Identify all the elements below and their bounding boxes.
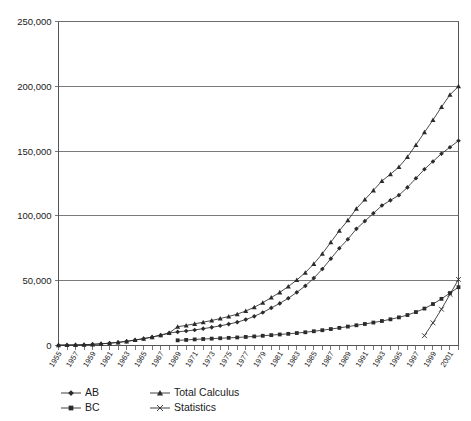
marker-square (346, 325, 350, 329)
chart-legend: ABTotal CalculusBCStatistics (61, 386, 239, 413)
marker-square (184, 338, 188, 342)
x-tick-label: 1993 (371, 350, 388, 369)
marker-square (176, 338, 180, 342)
series-statistics (422, 277, 461, 338)
legend-item-total-calculus[interactable]: Total Calculus (150, 386, 239, 398)
marker-diamond (192, 328, 197, 333)
y-tick-label: 0 (46, 340, 51, 351)
x-tick-label: 1963 (115, 350, 132, 369)
series-line-path (59, 141, 459, 345)
marker-square (303, 330, 307, 334)
marker-square (414, 310, 418, 314)
marker-square (201, 337, 205, 341)
marker-square (69, 406, 74, 411)
y-tick-label: 200,000 (17, 81, 51, 92)
y-axis: 050,000100,000150,000200,000250,000 (17, 16, 58, 351)
marker-diamond (269, 306, 274, 311)
marker-diamond (68, 390, 74, 396)
legend-item-ab[interactable]: AB (61, 386, 99, 398)
x-tick-label: 1981 (268, 350, 285, 369)
marker-square (218, 336, 222, 340)
marker-x (422, 333, 427, 338)
marker-triangle (430, 117, 435, 122)
x-tick-label: 1985 (302, 350, 319, 369)
marker-diamond (252, 314, 257, 319)
marker-square (329, 327, 333, 331)
series-bc (176, 285, 461, 342)
x-tick-label: 1987 (319, 350, 336, 369)
marker-triangle (243, 309, 248, 314)
marker-square (244, 335, 248, 339)
marker-square (397, 315, 401, 319)
x-tick-label: 1979 (251, 350, 268, 369)
marker-square (320, 328, 324, 332)
series-line-path (424, 279, 458, 335)
marker-square (423, 307, 427, 311)
marker-triangle (252, 305, 257, 310)
marker-square (363, 322, 367, 326)
marker-x (431, 320, 436, 325)
marker-diamond (218, 324, 223, 329)
x-tick-label: 1975 (217, 350, 234, 369)
marker-square (193, 338, 197, 342)
marker-diamond (388, 198, 393, 203)
x-tick-label: 1959 (81, 350, 98, 369)
marker-square (261, 334, 265, 338)
x-tick-label: 1995 (388, 350, 405, 369)
marker-square (252, 335, 256, 339)
marker-diamond (243, 317, 248, 322)
x-tick-label: 1969 (166, 350, 183, 369)
legend-label: AB (85, 386, 99, 398)
y-tick-label: 50,000 (22, 275, 51, 286)
marker-square (227, 336, 231, 340)
marker-square (286, 332, 290, 336)
marker-diamond (209, 325, 214, 330)
marker-square (389, 317, 393, 321)
marker-square (371, 321, 375, 325)
chart-container: 050,000100,000150,000200,000250,000 1955… (0, 0, 471, 421)
marker-square (295, 331, 299, 335)
marker-x (439, 307, 444, 312)
marker-diamond (226, 322, 231, 327)
legend-item-statistics[interactable]: Statistics (150, 401, 216, 413)
x-tick-label: 2001 (439, 350, 456, 369)
marker-diamond (235, 320, 240, 325)
marker-square (269, 333, 273, 337)
marker-square (312, 329, 316, 333)
y-tick-label: 150,000 (17, 146, 51, 157)
y-tick-label: 100,000 (17, 210, 51, 221)
marker-square (380, 319, 384, 323)
legend-label: Total Calculus (174, 386, 239, 398)
marker-square (354, 323, 358, 327)
marker-triangle (269, 295, 274, 300)
line-chart: 050,000100,000150,000200,000250,000 1955… (0, 0, 471, 421)
x-tick-label: 1957 (64, 350, 81, 369)
marker-triangle (413, 142, 418, 147)
legend-label: Statistics (174, 401, 216, 413)
marker-diamond (184, 329, 189, 334)
marker-square (210, 337, 214, 341)
x-tick-label: 1977 (234, 350, 251, 369)
x-axis: 1955195719591961196319651967196919711973… (47, 346, 458, 369)
marker-square (235, 336, 239, 340)
marker-diamond (277, 301, 282, 306)
legend-label: BC (85, 401, 100, 413)
gridlines (59, 22, 459, 346)
x-tick-label: 1965 (132, 350, 149, 369)
x-tick-label: 1967 (149, 350, 166, 369)
marker-triangle (277, 290, 282, 295)
x-tick-label: 1983 (285, 350, 302, 369)
legend-item-bc[interactable]: BC (61, 401, 100, 413)
x-tick-label: 1955 (47, 350, 64, 369)
x-tick-label: 1971 (183, 350, 200, 369)
marker-square (337, 326, 341, 330)
x-tick-label: 1991 (353, 350, 370, 369)
x-tick-label: 1999 (422, 350, 439, 369)
y-tick-label: 250,000 (17, 16, 51, 27)
x-tick-label: 1961 (98, 350, 115, 369)
marker-square (457, 285, 461, 289)
marker-diamond (175, 330, 180, 335)
marker-diamond (201, 326, 206, 331)
marker-square (431, 302, 435, 306)
marker-triangle (260, 300, 265, 305)
